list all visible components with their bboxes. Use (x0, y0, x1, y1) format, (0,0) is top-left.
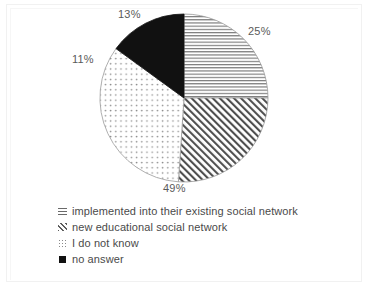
legend-swatch-diagonal-hatch-icon (58, 223, 67, 231)
legend-item-do-not-know[interactable]: I do not know (58, 235, 358, 251)
legend-label-no-answer: no answer (72, 253, 124, 266)
slice-value-label-49: 49% (163, 182, 186, 194)
chart-legend: implemented into their existing social n… (58, 203, 358, 267)
slice-value-label-25: 25% (248, 25, 271, 37)
pie-chart-svg (0, 0, 370, 200)
slice-value-label-11: 11% (72, 53, 94, 65)
pie-chart-figure: 25% 13% 11% 49% implemented into their e… (0, 0, 370, 292)
legend-item-new-educational-network[interactable]: new educational social network (58, 219, 358, 235)
legend-label-implemented-existing: implemented into their existing social n… (72, 205, 298, 218)
legend-label-new-educational-network: new educational social network (72, 221, 227, 234)
legend-swatch-solid-black-icon (59, 256, 66, 263)
legend-item-implemented-existing[interactable]: implemented into their existing social n… (58, 203, 358, 219)
legend-swatch-dots-icon (58, 239, 67, 247)
slice-value-label-13: 13% (118, 8, 141, 20)
pie-chart-area: 25% 13% 11% 49% (0, 0, 370, 200)
legend-label-do-not-know: I do not know (72, 237, 139, 250)
pie-slice-new-educational-network[interactable] (178, 98, 268, 182)
legend-swatch-horizontal-lines-icon (58, 208, 67, 215)
legend-item-no-answer[interactable]: no answer (58, 251, 358, 267)
